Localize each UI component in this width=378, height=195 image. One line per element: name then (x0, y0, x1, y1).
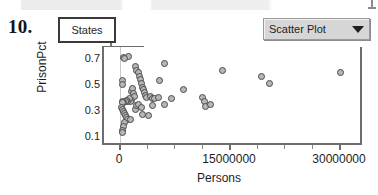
x-tick-minor (257, 145, 258, 149)
data-point[interactable] (207, 101, 214, 108)
data-point[interactable] (119, 81, 126, 88)
data-point[interactable] (161, 101, 168, 108)
y-tick-label: 0.1 (70, 130, 100, 142)
x-tick-label: 0 (116, 152, 123, 166)
x-tick-label: 30000000 (312, 152, 365, 166)
data-point[interactable] (149, 102, 156, 109)
chevron-down-icon (352, 26, 364, 33)
x-tick-label: 15000000 (202, 152, 255, 166)
data-point[interactable] (119, 129, 126, 136)
y-tick-labels: 0.10.30.50.7 (66, 47, 100, 145)
collection-box-states[interactable]: States (58, 17, 116, 43)
x-tick (229, 145, 231, 150)
x-axis-title: Persons (0, 171, 378, 185)
data-point[interactable] (180, 86, 187, 93)
x-tick (339, 145, 341, 150)
y-axis-title: PrisonPct (35, 19, 49, 115)
plot-type-label: Scatter Plot (269, 23, 350, 35)
x-tick-minor (147, 145, 148, 149)
data-point[interactable] (337, 69, 344, 76)
scan-artifact-mark (371, 0, 373, 9)
plot-type-dropdown[interactable]: Scatter Plot (263, 18, 370, 40)
x-tick (119, 145, 121, 150)
collection-name-label: States (71, 24, 102, 36)
data-point[interactable] (155, 94, 162, 101)
x-tick-minor (202, 145, 203, 149)
item-number: 10. (8, 16, 32, 38)
data-point[interactable] (121, 55, 128, 62)
data-point[interactable] (258, 73, 265, 80)
data-point[interactable] (161, 60, 168, 67)
scatter-plot-area[interactable] (102, 47, 362, 145)
y-tick-label: 0.7 (70, 52, 100, 64)
y-tick-label: 0.3 (70, 104, 100, 116)
x-tick-minor (284, 145, 285, 149)
data-point[interactable] (145, 112, 152, 119)
y-tick-label: 0.5 (70, 78, 100, 90)
scan-artifact-top (0, 0, 378, 10)
data-point[interactable] (156, 77, 163, 84)
data-point[interactable] (127, 116, 134, 123)
x-tick-minor (312, 145, 313, 149)
data-point[interactable] (266, 80, 273, 87)
plot-points-layer (104, 47, 360, 143)
x-tick-minor (174, 145, 175, 149)
data-point[interactable] (168, 95, 175, 102)
data-point[interactable] (219, 67, 226, 74)
